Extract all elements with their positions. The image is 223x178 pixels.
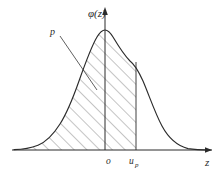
quantile-label: u p: [129, 156, 139, 169]
y-axis-label: φ(z): [88, 7, 106, 20]
x-axis-label: z: [204, 156, 210, 168]
normal-distribution-figure: φ(z) z o u p p: [0, 0, 223, 178]
region-callout-label: p: [49, 26, 55, 37]
figure-canvas: φ(z) z o u p p: [0, 0, 223, 178]
quantile-label-subscript: p: [134, 161, 139, 169]
origin-label: o: [106, 156, 111, 166]
hatch-fill: [10, 20, 142, 152]
quantile-label-base: u: [129, 156, 134, 166]
shaded-probability-region: [10, 20, 142, 152]
